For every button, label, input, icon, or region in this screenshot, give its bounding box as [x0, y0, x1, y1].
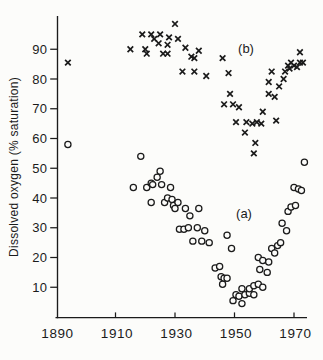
x-tick-label: 1930: [160, 326, 192, 341]
series-b-point: [266, 91, 272, 97]
series-b-point: [220, 55, 226, 61]
series-a-point: [194, 225, 200, 231]
series-a-point: [206, 240, 212, 246]
series-a-point: [278, 240, 284, 246]
series-b-point: [175, 36, 181, 42]
series-b-point: [192, 69, 198, 75]
y-axis-title: Dissolved oxygen (% saturation): [7, 77, 21, 257]
series-a-label: (a): [236, 206, 252, 221]
series-b-point: [236, 104, 242, 110]
series-a-point: [130, 184, 136, 190]
series-a-point: [199, 238, 205, 244]
series-b-point: [276, 84, 282, 90]
series-b-point: [203, 73, 209, 79]
series-a-point: [272, 250, 278, 256]
series-b-point: [230, 101, 236, 107]
series-a-point: [167, 184, 173, 190]
series-b-point: [297, 49, 303, 55]
series-a-point: [217, 263, 223, 269]
series-a-point: [292, 202, 298, 208]
series-b-point: [269, 69, 275, 75]
series-b-point: [273, 118, 279, 124]
series-b-label: (b): [238, 41, 254, 56]
series-b-point: [221, 101, 227, 107]
series-b-point: [166, 35, 172, 41]
series-b-point: [266, 79, 272, 85]
series-a-point: [239, 286, 245, 292]
series-a-point: [185, 225, 191, 231]
series-b-point: [260, 109, 266, 115]
series-b-point: [233, 119, 239, 125]
x-tick-label: 1970: [279, 326, 311, 341]
series-a-point: [230, 298, 236, 304]
y-tick-label: 70: [32, 101, 47, 116]
series-a-point: [187, 213, 193, 219]
series-b-point: [183, 45, 189, 51]
series-a-point: [224, 275, 230, 281]
series-b-point: [65, 60, 71, 66]
y-tick-label: 40: [32, 191, 47, 206]
series-a-point: [236, 293, 242, 299]
series-a-point: [260, 257, 266, 263]
series-a-point: [279, 220, 285, 226]
series-b-point: [244, 119, 250, 125]
series-a-point: [283, 228, 289, 234]
dissolved-oxygen-scatter-plot: 10203040506070809018901910193019501970: [0, 0, 323, 360]
y-tick-label: 80: [32, 72, 47, 87]
series-b-point: [226, 70, 232, 76]
series-a-point: [264, 269, 270, 275]
series-a-point: [266, 259, 272, 265]
series-b-point: [196, 48, 202, 54]
series-a-point: [202, 228, 208, 234]
series-a-point: [159, 182, 165, 188]
x-tick-label: 1890: [41, 326, 73, 341]
series-a-point: [301, 159, 307, 165]
series-a-point: [138, 153, 144, 159]
series-a-point: [175, 199, 181, 205]
series-a-point: [260, 284, 266, 290]
y-tick-label: 50: [32, 161, 47, 176]
series-b-point: [128, 46, 134, 52]
series-a-point: [190, 238, 196, 244]
series-b-point: [227, 91, 233, 97]
series-a-point: [182, 205, 188, 211]
series-b-point: [180, 69, 186, 75]
series-b-point: [139, 32, 145, 38]
series-a-point: [228, 245, 234, 251]
series-b-point: [281, 76, 287, 82]
y-tick-label: 20: [32, 250, 47, 265]
series-a-point: [239, 301, 245, 307]
series-a-point: [251, 292, 257, 298]
series-a-point: [224, 232, 230, 238]
series-a-point: [220, 281, 226, 287]
series-b-point: [157, 32, 163, 38]
series-b-point: [253, 140, 259, 146]
series-b-point: [165, 42, 171, 48]
series-a-point: [65, 141, 71, 147]
y-tick-label: 30: [32, 220, 47, 235]
x-tick-label: 1950: [220, 326, 252, 341]
series-b-point: [272, 94, 278, 100]
y-tick-label: 60: [32, 131, 47, 146]
series-b-point: [251, 151, 257, 157]
series-a-point: [169, 196, 175, 202]
series-a-point: [257, 266, 263, 272]
series-a-point: [196, 205, 202, 211]
x-tick-label: 1910: [101, 326, 133, 341]
y-tick-label: 90: [32, 42, 47, 57]
chart-figure: 10203040506070809018901910193019501970 D…: [0, 0, 323, 360]
series-a-point: [150, 182, 156, 188]
series-a-point: [148, 199, 154, 205]
series-a-point: [154, 174, 160, 180]
series-b-point: [242, 130, 248, 136]
series-b-point: [165, 51, 171, 57]
series-b-point: [172, 21, 178, 27]
series-b-point: [156, 41, 162, 47]
series-a-point: [298, 187, 304, 193]
y-tick-label: 10: [32, 280, 47, 295]
series-a-point: [172, 205, 178, 211]
series-a-point: [157, 168, 163, 174]
